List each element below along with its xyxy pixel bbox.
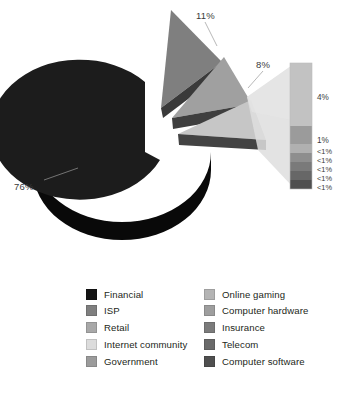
legend-swatch-internet-community — [86, 339, 97, 350]
legend-column-right: Online gaming Computer hardware Insuranc… — [204, 288, 334, 367]
legend-label-internet-community: Internet community — [104, 339, 187, 350]
legend-item-telecom: Telecom — [204, 338, 334, 351]
bar-label-sub1-d: <1% — [317, 174, 332, 183]
magnifier-cone — [247, 66, 291, 185]
legend-swatch-computer-software — [204, 356, 215, 367]
legend-label-isp: ISP — [104, 305, 120, 316]
legend-swatch-retail — [86, 322, 97, 333]
bar-label-sub1-c: <1% — [317, 165, 332, 174]
pie-chart-svg: 76% 11% 8% 4% 1% <1% <1% <1% <1% <1% — [0, 0, 341, 285]
legend-swatch-telecom — [204, 339, 215, 350]
legend-item-internet-community: Internet community — [86, 338, 192, 351]
pct-label-11: 11% — [196, 10, 215, 21]
leader-line-8 — [248, 71, 263, 88]
legend-swatch-insurance — [204, 322, 215, 333]
bar-label-1pct: 1% — [317, 136, 329, 145]
pct-label-8: 8% — [256, 59, 270, 70]
legend-swatch-isp — [86, 305, 97, 316]
bar-label-sub1-e: <1% — [317, 183, 332, 192]
legend-swatch-government — [86, 356, 97, 367]
legend-item-isp: ISP — [86, 305, 192, 318]
pct-label-76: 76% — [14, 181, 34, 192]
legend-item-computer-software: Computer software — [204, 355, 334, 368]
legend-label-government: Government — [104, 356, 158, 367]
legend-label-computer-hardware: Computer hardware — [222, 305, 308, 316]
legend-item-online-gaming: Online gaming — [204, 288, 334, 301]
bar-label-4pct: 4% — [317, 93, 329, 102]
pie-chart-figure: 76% 11% 8% 4% 1% <1% <1% <1% <1% <1% — [0, 0, 341, 285]
legend-label-insurance: Insurance — [222, 322, 265, 333]
legend-label-telecom: Telecom — [222, 339, 258, 350]
chart-legend: Financial ISP Retail Internet community … — [0, 288, 341, 403]
legend-swatch-computer-hardware — [204, 305, 215, 316]
legend-item-financial: Financial — [86, 288, 192, 301]
leader-line-11 — [205, 22, 217, 46]
legend-item-retail: Retail — [86, 321, 192, 334]
legend-item-government: Government — [86, 355, 192, 368]
pie-slice-financial — [0, 60, 160, 222]
legend-label-online-gaming: Online gaming — [222, 289, 285, 300]
legend-label-computer-software: Computer software — [222, 356, 305, 367]
legend-column-left: Financial ISP Retail Internet community … — [86, 288, 192, 367]
legend-item-insurance: Insurance — [204, 321, 334, 334]
legend-swatch-financial — [86, 289, 97, 300]
detail-breakdown-bar — [290, 63, 312, 189]
legend-item-computer-hardware: Computer hardware — [204, 305, 334, 318]
bar-label-sub1-b: <1% — [317, 156, 332, 165]
bar-label-sub1-a: <1% — [317, 147, 332, 156]
legend-label-retail: Retail — [104, 322, 129, 333]
legend-label-financial: Financial — [104, 289, 143, 300]
legend-swatch-online-gaming — [204, 289, 215, 300]
